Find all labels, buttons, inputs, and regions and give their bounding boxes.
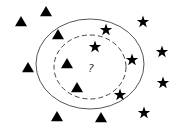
star-icon	[156, 46, 168, 58]
star-icon	[89, 41, 101, 53]
star-icon	[126, 54, 138, 66]
triangle-icon	[71, 82, 83, 92]
triangle-icon	[22, 62, 34, 72]
triangle-icon	[95, 112, 107, 122]
star-icon	[138, 107, 150, 119]
star-icon	[157, 77, 169, 89]
triangle-icon	[51, 111, 63, 121]
triangle-icon	[15, 16, 27, 26]
triangle-icon	[40, 6, 52, 16]
star-class-points	[89, 16, 169, 119]
query-point-label: ?	[88, 62, 94, 75]
star-icon	[137, 16, 149, 28]
star-icon	[100, 24, 112, 36]
triangle-icon	[61, 58, 73, 68]
